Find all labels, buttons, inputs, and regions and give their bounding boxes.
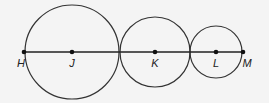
point-k — [153, 50, 158, 55]
point-h — [22, 50, 27, 55]
point-l — [214, 50, 219, 55]
label-m: M — [242, 57, 251, 69]
label-k: K — [151, 57, 158, 69]
diagram-svg — [0, 0, 269, 103]
geometry-diagram: H J K L M — [0, 0, 269, 103]
point-j — [70, 50, 75, 55]
label-j: J — [69, 57, 75, 69]
label-h: H — [17, 57, 25, 69]
label-l: L — [213, 57, 219, 69]
point-m — [241, 50, 246, 55]
